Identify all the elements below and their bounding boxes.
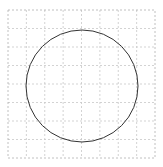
diagram-canvas <box>0 0 163 167</box>
grid <box>8 10 155 158</box>
